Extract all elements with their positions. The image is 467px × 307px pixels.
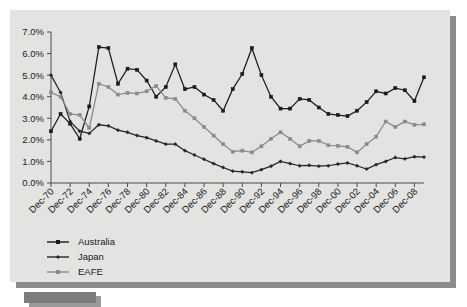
- data-point: [174, 97, 177, 100]
- chart-canvas: 0.0%1.0%2.0%3.0%4.0%5.0%6.0%7.0% Dec-70D…: [10, 10, 450, 282]
- y-tick-label: 2.0%: [22, 134, 44, 145]
- data-point: [308, 139, 311, 142]
- data-point: [260, 168, 263, 171]
- data-point: [97, 82, 100, 85]
- data-point: [394, 125, 397, 128]
- data-point: [413, 123, 416, 126]
- data-point: [231, 150, 234, 153]
- data-point: [78, 114, 81, 117]
- data-point: [317, 106, 320, 109]
- data-point: [183, 88, 186, 91]
- data-point: [260, 74, 263, 77]
- y-tick-label: 7.0%: [22, 26, 44, 37]
- legend-swatch-marker: [56, 270, 60, 274]
- data-point: [135, 134, 138, 137]
- y-tick-label: 3.0%: [22, 113, 44, 124]
- data-point: [126, 131, 129, 134]
- data-point: [423, 123, 426, 126]
- y-tick-label: 6.0%: [22, 48, 44, 59]
- data-point: [145, 79, 148, 82]
- data-point: [212, 98, 215, 101]
- screenshot-root: 0.0%1.0%2.0%3.0%4.0%5.0%6.0%7.0% Dec-70D…: [0, 0, 467, 307]
- chart-legend: AustraliaJapanEAFE: [47, 236, 116, 277]
- data-point: [136, 92, 139, 95]
- data-point: [193, 86, 196, 89]
- data-point: [59, 112, 62, 115]
- chart-panel: 0.0%1.0%2.0%3.0%4.0%5.0%6.0%7.0% Dec-70D…: [10, 10, 450, 282]
- data-point: [336, 114, 339, 117]
- y-axis: 0.0%1.0%2.0%3.0%4.0%5.0%6.0%7.0%: [22, 26, 51, 188]
- legend-swatch-marker: [56, 255, 60, 259]
- data-point: [346, 161, 349, 164]
- data-point: [174, 63, 177, 66]
- data-point: [212, 134, 215, 137]
- data-point: [403, 157, 406, 160]
- legend-swatch-marker: [56, 240, 60, 244]
- data-point: [394, 156, 397, 159]
- data-point: [250, 171, 253, 174]
- data-point: [59, 95, 62, 98]
- data-point: [155, 95, 158, 98]
- data-point: [279, 107, 282, 110]
- data-point: [155, 139, 158, 142]
- legend-label: Australia: [78, 236, 116, 247]
- series-eafe: [50, 82, 426, 154]
- series-layer: [49, 46, 425, 175]
- data-point: [422, 155, 425, 158]
- data-point: [145, 136, 148, 139]
- data-point: [116, 82, 119, 85]
- data-point: [164, 142, 167, 145]
- data-point: [355, 164, 358, 167]
- legend-item-japan[interactable]: Japan: [47, 251, 104, 262]
- legend-label: Japan: [78, 251, 104, 262]
- data-point: [384, 160, 387, 163]
- data-point: [136, 68, 139, 71]
- data-point: [107, 86, 110, 89]
- line-chart: 0.0%1.0%2.0%3.0%4.0%5.0%6.0%7.0% Dec-70D…: [10, 10, 450, 282]
- data-point: [423, 76, 426, 79]
- data-point: [260, 145, 263, 148]
- y-tick-label: 4.0%: [22, 91, 44, 102]
- data-point: [346, 115, 349, 118]
- series-line-australia: [51, 47, 424, 139]
- data-point: [336, 144, 339, 147]
- data-point: [221, 166, 224, 169]
- data-point: [126, 91, 129, 94]
- data-point: [356, 151, 359, 154]
- data-point: [327, 144, 330, 147]
- data-point: [403, 89, 406, 92]
- data-point: [222, 143, 225, 146]
- data-point: [241, 170, 244, 173]
- data-point: [384, 120, 387, 123]
- data-point: [308, 98, 311, 101]
- data-point: [269, 95, 272, 98]
- data-point: [269, 137, 272, 140]
- y-tick-label: 1.0%: [22, 156, 44, 167]
- series-japan: [49, 73, 425, 174]
- data-point: [298, 145, 301, 148]
- data-point: [413, 100, 416, 103]
- data-point: [356, 109, 359, 112]
- data-point: [155, 84, 158, 87]
- legend-item-eafe[interactable]: EAFE: [47, 266, 103, 277]
- data-point: [375, 90, 378, 93]
- data-point: [298, 97, 301, 100]
- data-point: [88, 126, 91, 129]
- data-point: [97, 46, 100, 49]
- data-point: [50, 130, 53, 133]
- data-point: [88, 105, 91, 108]
- data-point: [308, 164, 311, 167]
- data-point: [231, 169, 234, 172]
- data-point: [222, 109, 225, 112]
- data-point: [203, 125, 206, 128]
- legend-item-australia[interactable]: Australia: [47, 236, 116, 247]
- data-point: [241, 73, 244, 76]
- data-point: [241, 149, 244, 152]
- data-point: [183, 109, 186, 112]
- data-point: [365, 143, 368, 146]
- data-point: [116, 93, 119, 96]
- data-point: [289, 137, 292, 140]
- data-point: [78, 137, 81, 140]
- y-tick-label: 0.0%: [22, 177, 44, 188]
- data-point: [107, 47, 110, 50]
